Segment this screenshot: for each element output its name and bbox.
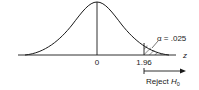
reject-arrow-head <box>180 69 186 74</box>
tick-label-zero: 0 <box>95 58 100 67</box>
tick-label-critical: 1.96 <box>136 58 152 67</box>
reject-text: Reject <box>146 77 171 86</box>
normal-distribution-chart: 0 1.96 α = .025 z Reject H0 <box>0 0 199 90</box>
h-subscript: 0 <box>177 81 180 87</box>
rejection-region-shading <box>144 43 169 55</box>
z-axis-label: z <box>182 51 187 60</box>
alpha-label: α = .025 <box>157 34 187 43</box>
reject-label: Reject H0 <box>146 77 180 87</box>
